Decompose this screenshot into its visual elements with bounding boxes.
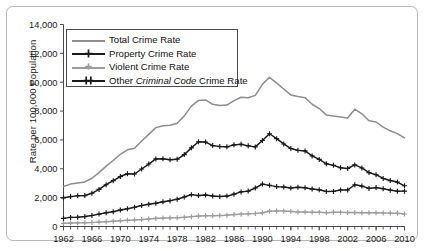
legend-item-total: Total Crime Rate <box>72 33 233 47</box>
series-property-crime-rate <box>61 131 407 200</box>
chart-figure: Rate per 100,000 Population 02,0004,0006… <box>0 0 426 251</box>
legend-label-violent: Violent Crime Rate <box>109 61 189 72</box>
legend-item-other: Other Criminal Code Crime Rate <box>72 74 233 88</box>
x-tick-label: 1970 <box>110 234 131 244</box>
y-tick-label: 12,000 <box>29 49 57 59</box>
x-tick-label: 1974 <box>138 234 159 244</box>
x-tick-label: 1990 <box>252 234 273 244</box>
legend-label-other: Other Criminal Code Crime Rate <box>109 75 248 86</box>
y-tick-label: 14,000 <box>29 20 57 30</box>
legend-item-violent: Violent Crime Rate <box>72 60 233 74</box>
legend-swatch-other <box>72 75 105 86</box>
x-tick-label: 1998 <box>309 234 330 244</box>
legend-swatch-total <box>72 34 105 45</box>
x-tick-label: 1978 <box>167 234 188 244</box>
y-tick-label: 8,000 <box>34 106 57 116</box>
y-tick-label: 0 <box>52 222 57 232</box>
legend-label-total: Total Crime Rate <box>109 34 180 45</box>
legend-label-property: Property Crime Rate <box>109 48 196 59</box>
series-total-crime-rate <box>64 77 405 186</box>
legend-swatch-property <box>72 48 105 59</box>
y-tick-label: 4,000 <box>34 164 57 174</box>
x-tick-label: 1966 <box>82 234 103 244</box>
chart-legend: Total Crime Rate Property Crime Rate Vio… <box>66 29 238 87</box>
x-tick-label: 2010 <box>394 234 415 244</box>
x-tick-label: 2002 <box>337 234 358 244</box>
x-tick-label: 1986 <box>224 234 245 244</box>
x-tick-label: 1994 <box>280 234 301 244</box>
y-tick-label: 2,000 <box>34 193 57 203</box>
legend-item-property: Property Crime Rate <box>72 47 233 61</box>
x-tick-label: 2006 <box>366 234 387 244</box>
y-tick-label: 10,000 <box>29 78 57 88</box>
x-tick-label: 1982 <box>195 234 216 244</box>
legend-swatch-violent <box>72 61 105 72</box>
x-tick-label: 1962 <box>53 234 74 244</box>
series-group <box>61 77 407 226</box>
y-tick-label: 6,000 <box>34 135 57 145</box>
